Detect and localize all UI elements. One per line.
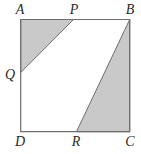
label-a: A: [15, 2, 25, 17]
label-c: C: [125, 134, 135, 149]
label-q: Q: [5, 67, 15, 82]
square-diagram: A P B Q D R C: [0, 0, 141, 154]
shaded-triangle-brc: [77, 20, 130, 132]
label-d: D: [14, 134, 25, 149]
label-b: B: [126, 2, 135, 17]
shaded-triangle-apq: [21, 20, 74, 73]
geometry-figure: A P B Q D R C: [0, 0, 141, 154]
label-r: R: [71, 134, 81, 149]
label-p: P: [69, 2, 79, 17]
